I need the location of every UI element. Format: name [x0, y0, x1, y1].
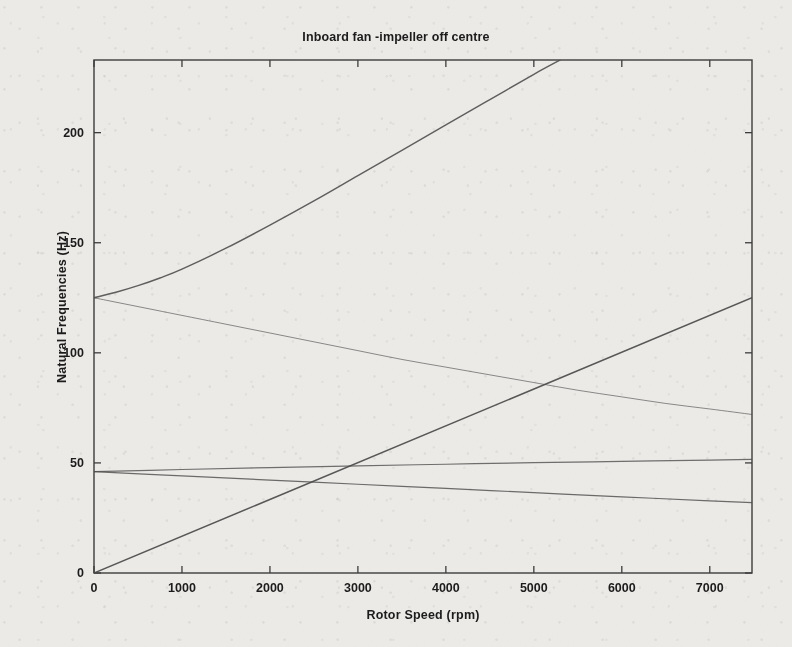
x-tick-label: 6000 — [608, 581, 636, 595]
curve-backward-whirl-mode-2 — [94, 298, 752, 415]
x-tick-label: 4000 — [432, 581, 460, 595]
x-tick-label: 3000 — [344, 581, 372, 595]
plot-box — [94, 60, 752, 573]
y-tick-label: 0 — [30, 566, 84, 580]
curve-synchronous-1x-line — [94, 298, 752, 573]
data-curves — [94, 60, 752, 573]
axis-ticks — [94, 60, 752, 573]
chart-figure: Inboard fan -impeller off centre Natural… — [0, 0, 792, 647]
curve-backward-whirl-mode-1 — [94, 472, 752, 503]
x-tick-label: 2000 — [256, 581, 284, 595]
y-tick-label: 100 — [30, 346, 84, 360]
x-tick-label: 1000 — [168, 581, 196, 595]
y-tick-label: 200 — [30, 126, 84, 140]
y-tick-label: 50 — [30, 456, 84, 470]
x-tick-label: 5000 — [520, 581, 548, 595]
plot-area — [0, 0, 792, 647]
y-tick-label: 150 — [30, 236, 84, 250]
curve-forward-whirl-mode-2 — [94, 60, 560, 298]
x-tick-label: 7000 — [696, 581, 724, 595]
curve-forward-whirl-mode-1 — [94, 459, 752, 471]
x-tick-label: 0 — [91, 581, 98, 595]
